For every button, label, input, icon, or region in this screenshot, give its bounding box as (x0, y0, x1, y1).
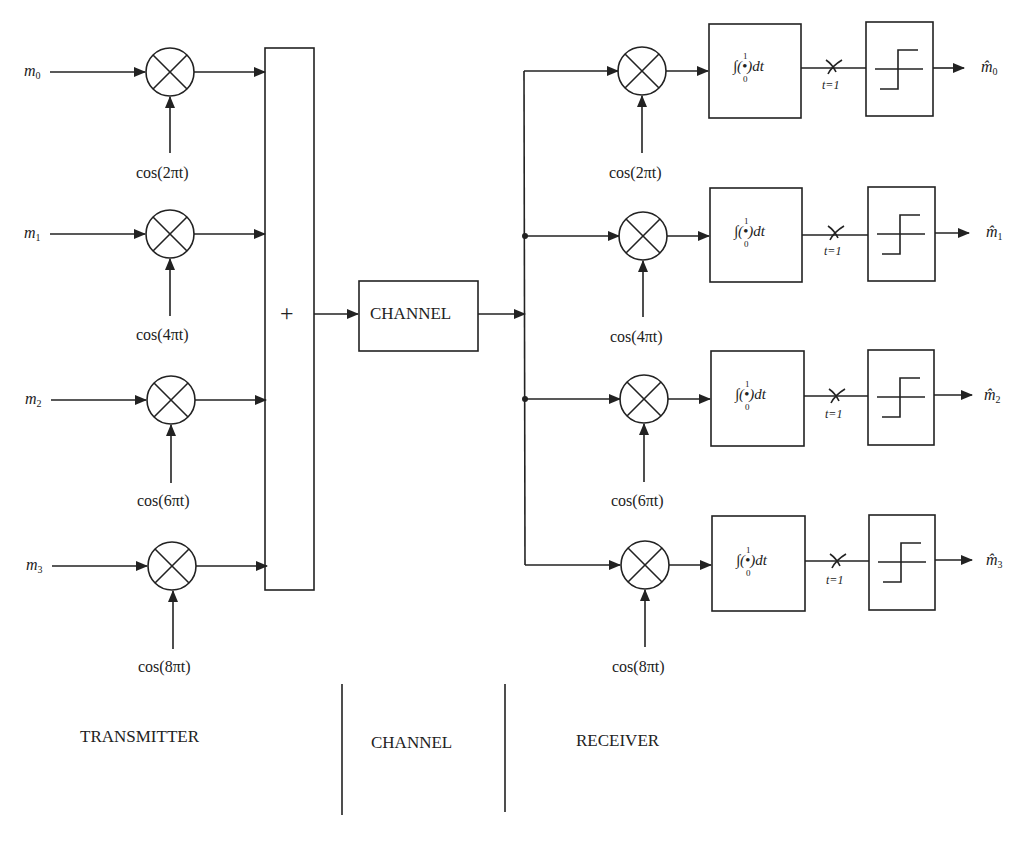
channel-block-label: CHANNEL (370, 304, 451, 324)
int-lower-1: 0 (744, 239, 749, 249)
int-upper-0: 1 (743, 51, 748, 61)
sample-time-label-2: t=1 (825, 407, 842, 422)
rx-carrier-label-1: cos(4πt) (610, 328, 663, 346)
tx-branch-1 (50, 210, 265, 316)
sample-time-label-1: t=1 (824, 244, 841, 259)
sample-time-label-3: t=1 (826, 573, 843, 588)
rx-carrier-label-2: cos(6πt) (611, 492, 664, 510)
rx-branch-3 (525, 515, 972, 647)
rx-output-label-1: m̂1 (986, 223, 1003, 242)
tx-carrier-label-3: cos(8πt) (138, 658, 191, 676)
int-upper-3: 1 (746, 545, 751, 555)
integrator-label-0: ∫(•)dt (733, 58, 764, 75)
tx-branch-3 (52, 542, 267, 649)
section-label-channel: CHANNEL (371, 733, 452, 753)
integrator-label-1: ∫(•)dt (734, 223, 765, 240)
int-lower-3: 0 (746, 568, 751, 578)
int-upper-1: 1 (744, 216, 749, 226)
tx-carrier-label-0: cos(2πt) (136, 164, 189, 182)
rx-output-label-2: m̂2 (984, 386, 1001, 405)
section-label-transmitter: TRANSMITTER (80, 727, 199, 747)
rx-output-label-3: m̂3 (986, 551, 1003, 570)
rx-carrier-label-0: cos(2πt) (609, 164, 662, 182)
int-lower-0: 0 (743, 74, 748, 84)
rx-branch-0 (524, 22, 964, 153)
sampler-switch-icon-0 (826, 60, 842, 74)
integrator-label-3: ∫(•)dt (736, 552, 767, 569)
int-upper-2: 1 (745, 379, 750, 389)
tx-branch-2 (51, 376, 266, 483)
tx-branch-0 (50, 48, 265, 153)
receiver-bus (524, 71, 525, 565)
rx-branch-2 (525, 350, 972, 482)
tx-input-label-0: m0 (24, 62, 41, 81)
summer-plus-icon: + (280, 300, 294, 327)
integrator-label-2: ∫(•)dt (735, 386, 766, 403)
tx-carrier-label-1: cos(4πt) (136, 326, 189, 344)
rx-output-label-0: m̂0 (981, 58, 998, 77)
tx-carrier-label-2: cos(6πt) (137, 492, 190, 510)
section-label-receiver: RECEIVER (576, 731, 659, 751)
tx-input-label-2: m2 (25, 390, 42, 409)
tx-input-label-3: m3 (26, 556, 43, 575)
int-lower-2: 0 (745, 402, 750, 412)
rx-branch-1 (525, 187, 969, 317)
block-diagram-canvas (0, 0, 1029, 844)
tx-input-label-1: m1 (24, 224, 41, 243)
rx-carrier-label-3: cos(8πt) (612, 658, 665, 676)
sampler-switch-icon-1 (828, 226, 844, 240)
sample-time-label-0: t=1 (822, 78, 839, 93)
